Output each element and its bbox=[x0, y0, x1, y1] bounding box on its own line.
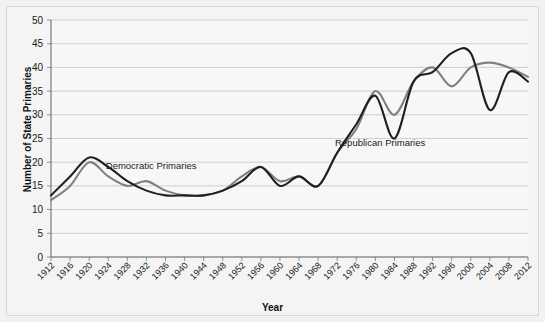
chart-root: Number of State Primaries Year 051015202… bbox=[0, 0, 545, 322]
y-tick-label: 45 bbox=[32, 38, 44, 49]
x-tick-label: 1916 bbox=[54, 260, 75, 281]
x-tick-label: 1948 bbox=[207, 260, 228, 281]
x-tick-label: 1932 bbox=[131, 260, 152, 281]
x-tick-label: 1976 bbox=[340, 260, 361, 281]
x-tick-label: 1944 bbox=[188, 260, 209, 281]
y-tick-label: 50 bbox=[32, 15, 44, 26]
x-tick-label: 1936 bbox=[150, 260, 171, 281]
x-axis-ticks: 1912191619201924192819321936194019441948… bbox=[35, 257, 533, 282]
y-tick-label: 5 bbox=[37, 228, 43, 239]
x-tick-label: 2004 bbox=[474, 260, 495, 281]
y-tick-label: 0 bbox=[37, 252, 43, 263]
x-tick-label: 1940 bbox=[169, 260, 190, 281]
x-tick-label: 1968 bbox=[302, 260, 323, 281]
x-tick-label: 1980 bbox=[360, 260, 381, 281]
x-tick-label: 1988 bbox=[398, 260, 419, 281]
x-tick-label: 1924 bbox=[92, 260, 113, 281]
x-tick-label: 1972 bbox=[321, 260, 342, 281]
x-tick-label: 1960 bbox=[264, 260, 285, 281]
series-annotation-label: Democratic Primaries bbox=[106, 160, 197, 171]
x-tick-label: 1912 bbox=[35, 260, 56, 281]
y-tick-label: 25 bbox=[32, 133, 44, 144]
x-tick-label: 1984 bbox=[379, 260, 400, 281]
y-tick-label: 40 bbox=[32, 62, 44, 73]
x-tick-label: 2000 bbox=[455, 260, 476, 281]
x-tick-label: 1964 bbox=[283, 260, 304, 281]
x-tick-label: 1996 bbox=[436, 260, 457, 281]
y-axis-ticks: 05101520253035404550 bbox=[32, 15, 51, 263]
x-tick-label: 1992 bbox=[417, 260, 438, 281]
series-annotation-label: Republican Primaries bbox=[335, 137, 426, 148]
x-tick-label: 1956 bbox=[245, 260, 266, 281]
y-tick-label: 15 bbox=[32, 180, 44, 191]
x-tick-label: 1928 bbox=[111, 260, 132, 281]
x-tick-label: 1920 bbox=[73, 260, 94, 281]
y-tick-label: 20 bbox=[32, 157, 44, 168]
y-tick-label: 30 bbox=[32, 109, 44, 120]
y-tick-label: 35 bbox=[32, 86, 44, 97]
x-tick-label: 1952 bbox=[226, 260, 247, 281]
x-tick-label: 2012 bbox=[512, 260, 533, 281]
line-chart-svg: 05101520253035404550 1912191619201924192… bbox=[0, 0, 545, 322]
x-tick-label: 2008 bbox=[493, 260, 514, 281]
y-tick-label: 10 bbox=[32, 204, 44, 215]
